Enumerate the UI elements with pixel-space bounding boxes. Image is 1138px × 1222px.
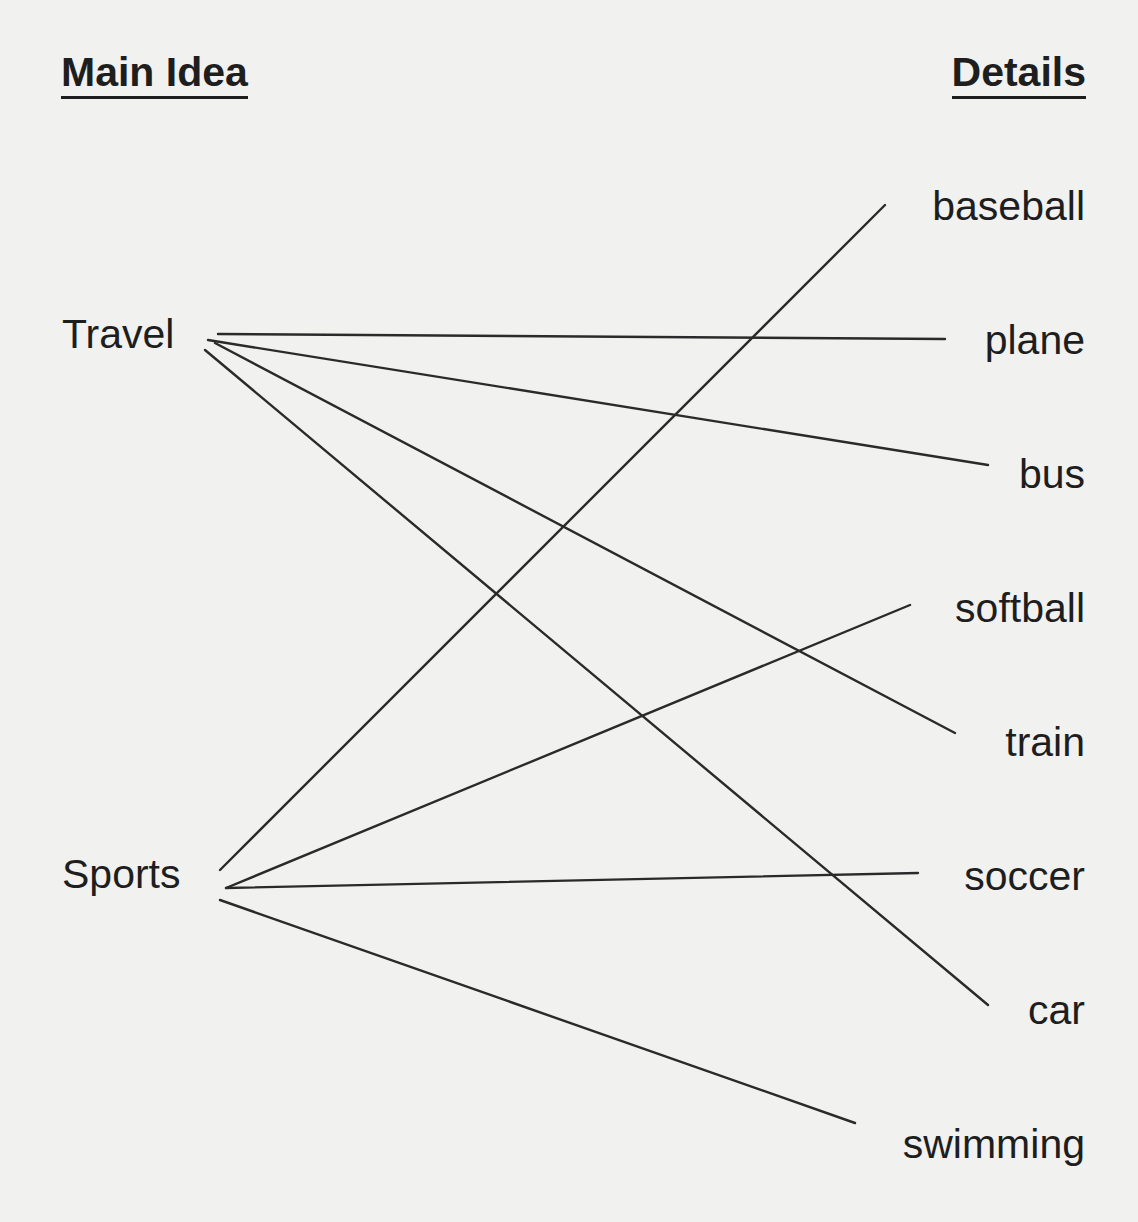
connection-lines: [0, 0, 1138, 1222]
connection-sports-baseball: [220, 205, 885, 870]
connection-travel-car: [205, 350, 988, 1005]
connection-sports-swimming: [220, 900, 855, 1123]
connection-travel-plane: [218, 334, 945, 339]
connection-travel-bus: [208, 340, 988, 465]
connection-sports-softball: [226, 605, 910, 888]
connection-sports-soccer: [226, 873, 918, 888]
